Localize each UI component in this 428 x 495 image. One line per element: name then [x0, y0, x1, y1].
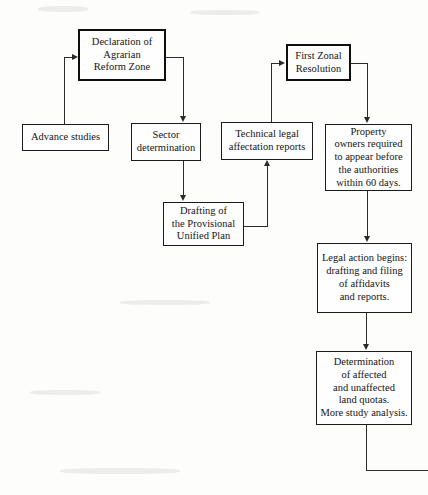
edge-technical-to-zonal-vertical: [271, 63, 272, 122]
edge-declaration-to-sector-horizontal: [166, 57, 184, 58]
edge-sector-to-drafting-vertical: [183, 161, 184, 196]
node-advance-studies[interactable]: Advance studies: [22, 124, 109, 151]
node-first-zonal-resolution[interactable]: First Zonal Resolution: [286, 44, 351, 81]
node-technical-legal-affectation-reports[interactable]: Technical legal affectation reports: [221, 122, 313, 160]
node-label: Advance studies: [26, 131, 105, 144]
scan-artifact: [30, 390, 100, 395]
edge-determination-to-continuation-horizontal: [366, 470, 428, 471]
arrowhead-into-legal-action: [364, 236, 370, 242]
scan-artifact: [38, 6, 88, 12]
node-sector-determination[interactable]: Sector determination: [131, 123, 201, 161]
edge-owners-to-legal-action-vertical: [367, 191, 368, 236]
node-label: Sector determination: [135, 129, 197, 155]
node-label: Legal action begins: drafting and filing…: [321, 252, 408, 303]
node-determination-of-land-quotas[interactable]: Determination of affected and unaffected…: [316, 351, 412, 425]
edge-drafting-to-technical-vertical: [267, 166, 268, 227]
node-drafting-provisional-unified-plan[interactable]: Drafting of the Provisional Unified Plan: [163, 202, 244, 246]
arrowhead-into-property-owners: [364, 117, 370, 123]
edge-determination-to-continuation-vertical: [366, 425, 367, 471]
edge-zonal-to-owners-vertical: [367, 63, 368, 118]
edge-declaration-to-sector-vertical: [183, 57, 184, 117]
arrowhead-into-drafting-plan: [180, 195, 186, 201]
node-declaration-of-agrarian-reform-zone[interactable]: Declaration of Agrarian Reform Zone: [78, 29, 166, 81]
scan-artifact: [120, 300, 210, 305]
scan-artifact: [60, 468, 180, 474]
node-legal-action-begins[interactable]: Legal action begins: drafting and filing…: [317, 243, 412, 313]
node-label: Technical legal affectation reports: [225, 128, 309, 154]
scan-artifact: [190, 10, 260, 15]
flowchart-canvas: Declaration of Agrarian Reform Zone Adva…: [0, 0, 428, 495]
edge-legal-action-to-determination-vertical: [366, 313, 367, 344]
node-label: Determination of affected and unaffected…: [320, 356, 408, 420]
node-label: First Zonal Resolution: [291, 50, 346, 76]
node-property-owners-required-to-appear[interactable]: Property owners required to appear befor…: [325, 124, 412, 191]
node-label: Property owners required to appear befor…: [329, 126, 408, 190]
arrowhead-into-determination: [363, 344, 369, 350]
arrowhead-into-technical-legal-reports: [264, 160, 270, 166]
arrowhead-into-first-zonal-resolution: [279, 60, 285, 66]
node-label: Drafting of the Provisional Unified Plan: [167, 205, 240, 243]
edge-zonal-to-owners-horizontal: [351, 63, 368, 64]
node-label: Declaration of Agrarian Reform Zone: [83, 36, 161, 74]
arrowhead-into-sector-determination: [180, 116, 186, 122]
edge-drafting-to-technical-horizontal: [244, 226, 268, 227]
edge-advance-to-declaration-vertical: [64, 57, 65, 124]
